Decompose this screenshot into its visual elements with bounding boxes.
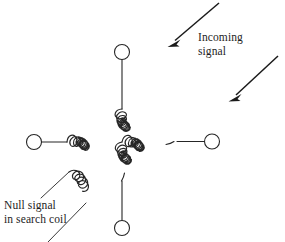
- horizontal-coil-right-tail: [166, 142, 174, 145]
- figure-root: Incoming signal Null signal in search co…: [0, 0, 285, 242]
- horizontal-coil-right: [122, 135, 174, 151]
- vertical-coil-lower: [115, 142, 131, 181]
- terminal-top-circle: [115, 45, 130, 60]
- horizontal-coil-left-path: [67, 135, 89, 150]
- terminal-left-circle: [27, 135, 42, 150]
- terminal-bottom-circle: [115, 221, 130, 236]
- vertical-coil-upper-path: [115, 109, 130, 131]
- search-coil-path: [69, 170, 88, 191]
- null-signal-label: Null signal in search coil: [4, 199, 67, 226]
- incoming-signal-arrow-lower: [229, 56, 279, 102]
- search-coil-leader-upper: [41, 172, 69, 198]
- horizontal-coil-left: [67, 135, 89, 150]
- terminal-right-circle: [205, 134, 220, 149]
- incoming-signal-label: Incoming signal: [198, 31, 243, 58]
- arrow-lower-head: [229, 94, 242, 102]
- arrow-lower-shaft: [236, 56, 278, 95]
- vertical-coil-upper: [115, 109, 130, 131]
- vertical-coil-lower-tail: [122, 173, 125, 181]
- arrow-upper-head: [168, 40, 181, 48]
